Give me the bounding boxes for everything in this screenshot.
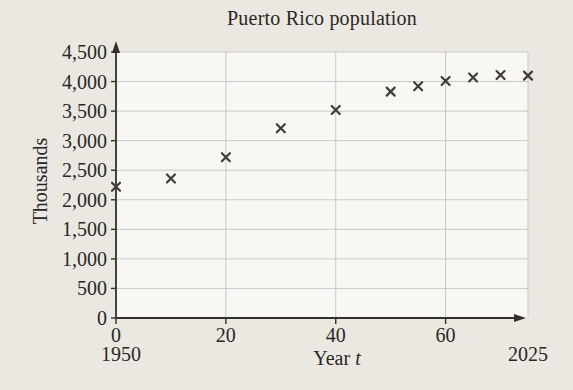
y-tick-label-1000: 1,000 <box>62 248 107 270</box>
y-tick-label-0: 0 <box>97 307 107 329</box>
y-axis-arrowhead <box>112 41 120 53</box>
y-tick-label-2000: 2,000 <box>62 189 107 211</box>
x-axis-title-text: Year <box>313 347 350 369</box>
y-tick-label-1500: 1,500 <box>62 218 107 240</box>
page: Puerto Rico population Thousands 05001,0… <box>0 0 573 390</box>
y-tick-label-500: 500 <box>77 277 107 299</box>
x-tick-label-20: 20 <box>216 324 236 346</box>
y-tick-label-2500: 2,500 <box>62 159 107 181</box>
y-tick-label-4000: 4,000 <box>62 71 107 93</box>
y-tick-label-3500: 3,500 <box>62 100 107 122</box>
plot-area: 05001,0001,5002,0002,5003,0003,5004,0004… <box>0 0 573 390</box>
plot-background <box>116 52 528 318</box>
x-tick-label-60: 60 <box>436 324 456 346</box>
x-tick-label-40: 40 <box>326 324 346 346</box>
y-tick-label-3000: 3,000 <box>62 130 107 152</box>
year-label-1950: 1950 <box>101 343 141 365</box>
x-axis-title: Year t <box>237 347 437 370</box>
x-axis-title-variable: t <box>355 347 361 369</box>
y-tick-label-4500: 4,500 <box>62 41 107 63</box>
year-label-2025: 2025 <box>508 343 548 365</box>
